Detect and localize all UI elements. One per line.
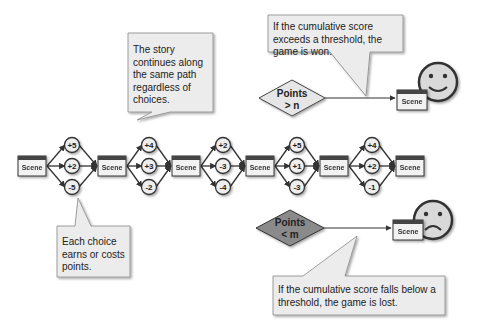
scene-label: Scene (400, 164, 421, 171)
lose-condition-line1: Points (275, 217, 306, 228)
win-condition-line2: > n (285, 100, 300, 111)
choice-value: +2 (367, 162, 377, 171)
win-scene-label: Scene (402, 98, 423, 105)
scene-label: Scene (102, 164, 123, 171)
scene-node: Scene (172, 156, 200, 176)
scene-label: Scene (176, 164, 197, 171)
choice-value: +4 (367, 141, 377, 150)
scene-node: Scene (246, 156, 274, 176)
choice-value: +1 (292, 162, 302, 171)
choice-value: -4 (219, 183, 227, 192)
lose-scene-label: Scene (398, 228, 419, 235)
scene-label: Scene (22, 164, 43, 171)
choice-value: +4 (144, 141, 154, 150)
callout-won-text: If the cumulative score exceeds a thresh… (273, 21, 405, 59)
choice-value: +5 (292, 141, 302, 150)
choice-value: -3 (219, 162, 227, 171)
lose-condition-line2: < m (281, 229, 299, 240)
win-condition-line1: Points (277, 88, 308, 99)
win-scene: Scene (397, 90, 427, 110)
callout-lost-text: If the cumulative score falls below a th… (278, 284, 443, 309)
choice-value: +3 (144, 162, 154, 171)
choice-value: +5 (67, 141, 77, 150)
story-path: +5+2-5+4+3-2+2-3-4+5+1-3+4+2-1SceneScene… (18, 138, 424, 195)
scene-node: Scene (18, 156, 46, 176)
lose-condition-diamond (256, 210, 324, 246)
callout-choice-text: Each choice earns or costs points. (62, 236, 126, 274)
choice-value: -1 (368, 183, 376, 192)
scene-node: Scene (98, 156, 126, 176)
callout-story-text: The story continues along the same path … (133, 44, 211, 107)
choice-value: -5 (68, 183, 76, 192)
choice-value: -3 (293, 183, 301, 192)
scene-label: Scene (324, 164, 345, 171)
scene-label: Scene (250, 164, 271, 171)
choice-value: -2 (145, 183, 153, 192)
scene-node: Scene (396, 156, 424, 176)
choice-value: +2 (67, 162, 77, 171)
lose-scene: Scene (393, 220, 423, 240)
scene-node: Scene (320, 156, 348, 176)
choice-value: +2 (218, 141, 228, 150)
